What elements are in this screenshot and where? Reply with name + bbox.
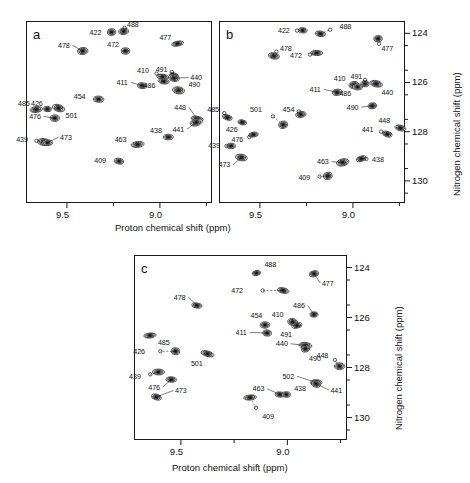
y-tick-label: 130 [354, 412, 370, 423]
y-tick-label: 124 [412, 27, 428, 38]
x-tick-label: 9.5 [249, 209, 262, 220]
y-tick-label: 126 [354, 312, 370, 323]
panel-b-y-axis-title: Nitrogen chemical shift (ppm) [451, 72, 462, 196]
panel-b-axes [218, 0, 470, 235]
panel-a-axes [0, 0, 215, 235]
y-tick-label: 124 [354, 262, 370, 273]
x-tick-label: 9.0 [276, 446, 289, 457]
y-tick-label: 128 [412, 126, 428, 137]
x-tick-label: 9.5 [56, 209, 69, 220]
panel-c-x-axis-title: Proton chemical shift (ppm) [172, 462, 288, 473]
panel-c-y-axis-title: Nitrogen chemical shift (ppm) [393, 306, 404, 430]
top-x-axis-title: Proton chemical shift (ppm) [115, 222, 231, 233]
panel-c-axes [110, 240, 470, 483]
panel-b: b 42248847747847241049144048641149045448… [218, 0, 470, 235]
x-tick-label: 9.0 [342, 209, 355, 220]
y-tick-label: 126 [412, 76, 428, 87]
x-tick-label: 9.5 [170, 446, 183, 457]
x-tick-label: 9.0 [149, 209, 162, 220]
panel-c: c 48847747247848641045449141148544042650… [110, 240, 470, 483]
y-tick-label: 130 [412, 175, 428, 186]
panel-a: a 42248847747847241049144048641149045448… [0, 0, 215, 235]
y-tick-label: 128 [354, 362, 370, 373]
